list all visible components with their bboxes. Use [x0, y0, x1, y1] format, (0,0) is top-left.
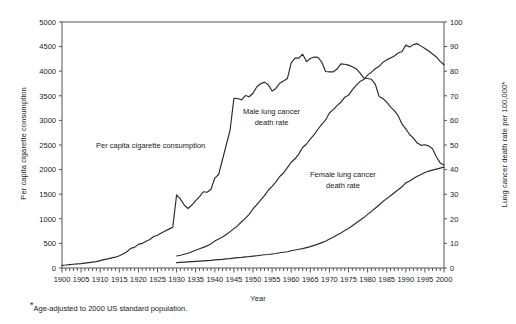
left-axis-tick-label: 5000 [39, 18, 56, 27]
x-axis-tick-label: 1920 [130, 275, 147, 284]
right-axis-tick-label: 10 [450, 239, 458, 248]
x-axis-tick-label: 1945 [226, 275, 243, 284]
x-axis-tick-label: 1985 [378, 275, 395, 284]
x-axis-tick-label: 1915 [111, 275, 128, 284]
series-label-female-line1: Female lung cancer [310, 170, 376, 179]
left-axis-tick-label: 3500 [39, 92, 56, 101]
series-label-male-line1: Male lung cancer [243, 107, 300, 116]
right-axis-tick-label: 0 [450, 264, 454, 273]
right-axis-tick-label: 80 [450, 67, 458, 76]
left-axis-tick-label: 1500 [39, 190, 56, 199]
chart-footnote: *Age-adjusted to 2000 US standard popula… [30, 304, 187, 313]
x-axis-tick-label: 1900 [54, 275, 71, 284]
x-axis-tick-label: 1970 [321, 275, 338, 284]
left-axis-tick-label: 1000 [39, 215, 56, 224]
left-axis-tick-label: 4000 [39, 67, 56, 76]
right-axis-tick-label: 50 [450, 141, 458, 150]
x-axis-tick-label: 1940 [206, 275, 223, 284]
chart-figure: 0500100015002000250030003500400045005000… [0, 0, 516, 324]
series-label-female-line2: death rate [326, 181, 360, 190]
x-axis-tick-label: 1995 [417, 275, 434, 284]
x-axis-tick-label: 1960 [283, 275, 300, 284]
right-axis-tick-label: 40 [450, 165, 458, 174]
left-axis-tick-label: 3000 [39, 116, 56, 125]
x-axis-tick-label: 1910 [92, 275, 109, 284]
x-axis-tick-label: 1990 [397, 275, 414, 284]
series-line-cigarette-consumption [62, 54, 444, 265]
right-axis-tick-label: 100 [450, 18, 463, 27]
right-axis-tick-label: 90 [450, 42, 458, 51]
x-axis-tick-label: 1955 [264, 275, 281, 284]
x-axis-tick-label: 1950 [245, 275, 262, 284]
left-axis-title: Per capita cigarette consumption [19, 44, 28, 244]
left-axis-tick-label: 4500 [39, 42, 56, 51]
series-label-male-lung-cancer: Male lung cancer death rate [243, 107, 300, 129]
lung-cancer-cigarette-line-chart: 0500100015002000250030003500400045005000… [0, 0, 516, 324]
x-axis-tick-label: 2000 [436, 275, 453, 284]
right-axis-tick-label: 30 [450, 190, 458, 199]
series-line-male-lung-cancer [177, 44, 444, 256]
x-axis-tick-label: 1925 [149, 275, 166, 284]
left-axis-tick-label: 2000 [39, 165, 56, 174]
series-label-cigarette-consumption: Per capita cigarette consumption [96, 141, 205, 152]
left-axis-tick-label: 500 [43, 239, 56, 248]
series-label-female-lung-cancer: Female lung cancer death rate [310, 170, 376, 192]
x-axis-tick-label: 1975 [340, 275, 357, 284]
x-axis-tick-label: 1965 [302, 275, 319, 284]
x-axis-tick-label: 1980 [359, 275, 376, 284]
right-axis-tick-label: 20 [450, 215, 458, 224]
right-axis-title: Lung cancer death rate per 100,000* [500, 45, 509, 245]
right-axis-tick-label: 60 [450, 116, 458, 125]
left-axis-tick-label: 2500 [39, 141, 56, 150]
series-label-cigarette-line1: Per capita cigarette consumption [96, 141, 205, 150]
left-axis-tick-label: 0 [52, 264, 56, 273]
x-axis-tick-label: 1935 [187, 275, 204, 284]
x-axis-tick-label: 1930 [168, 275, 185, 284]
x-axis-tick-label: 1905 [73, 275, 90, 284]
series-label-male-line2: death rate [255, 118, 289, 127]
footnote-text: Age-adjusted to 2000 US standard populat… [34, 304, 188, 313]
x-axis-title: Year [203, 294, 313, 303]
right-axis-tick-label: 70 [450, 92, 458, 101]
